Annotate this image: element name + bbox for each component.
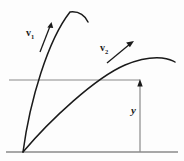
v2-vector-shaft	[107, 44, 130, 63]
v1-vector-shaft	[40, 25, 51, 52]
v1-subscript: 1	[31, 33, 34, 40]
height-label: y	[129, 104, 138, 117]
trajectory-2-curve	[23, 58, 175, 152]
v1-vector-arrowhead-icon	[47, 22, 53, 28]
v1-vector-label: v1	[26, 28, 34, 41]
projectile-motion-figure: v1 v2 y	[0, 0, 184, 161]
figure-canvas	[0, 0, 184, 161]
v2-vector-label: v2	[100, 43, 108, 56]
v2-subscript: 2	[105, 48, 108, 55]
